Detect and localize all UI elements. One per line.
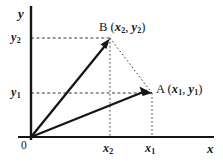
origin-label: 0 — [21, 140, 27, 152]
point-b-suffix: ) — [141, 20, 145, 34]
x-axis-label: x — [207, 142, 214, 155]
point-b-var1: x — [115, 20, 121, 34]
point-a-var1: x — [172, 82, 178, 96]
y-tick-upper: y2 — [11, 31, 21, 45]
x-tick-right: x1 — [145, 142, 155, 156]
y-axis-label: y — [18, 7, 24, 20]
point-b-prefix: B ( — [99, 20, 115, 34]
x-tick-right-sub: 1 — [151, 147, 155, 156]
vector-to-a — [31, 87, 152, 137]
y-tick-upper-sub: 2 — [17, 36, 21, 45]
y-tick-upper-var: y — [11, 30, 16, 44]
x-tick-left: x2 — [103, 142, 113, 156]
connector-b-to-a — [110, 38, 152, 93]
y-tick-lower-sub: 1 — [17, 91, 21, 100]
point-a-prefix: A ( — [156, 82, 172, 96]
point-label-a: A (x1, y1) — [156, 83, 202, 97]
vector-diagram-figure: y x 0 y2 y1 x2 x1 B (x2, y2) A (x1, y1) — [0, 0, 223, 161]
x-tick-left-sub: 2 — [109, 147, 113, 156]
point-label-b: B (x2, y2) — [99, 21, 145, 35]
y-tick-lower-var: y — [11, 85, 16, 99]
point-a-suffix: ) — [198, 82, 202, 96]
y-tick-lower: y1 — [11, 86, 21, 100]
